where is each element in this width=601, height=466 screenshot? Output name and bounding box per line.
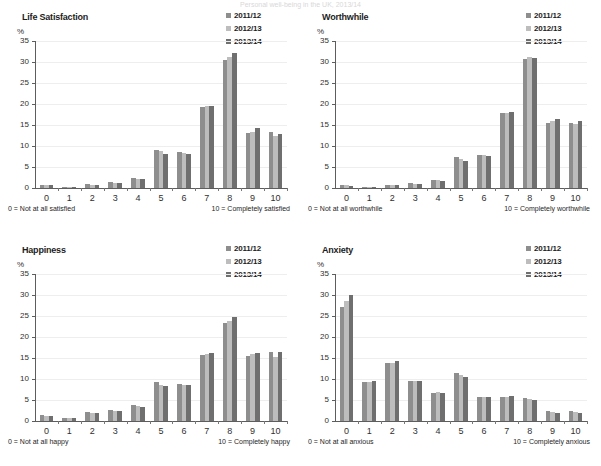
bar <box>49 185 54 188</box>
y-axis-tick-label: 10 <box>11 142 29 150</box>
x-axis-tick-label: 2 <box>81 426 103 436</box>
legend-item[interactable]: 2012/13 <box>226 22 292 34</box>
bar <box>395 361 400 421</box>
bar <box>72 418 77 421</box>
bar <box>278 134 283 188</box>
legend-item-label: 2012/13 <box>534 257 562 266</box>
legend-swatch-icon <box>226 13 231 18</box>
x-axis-tick-label: 0 <box>35 426 57 436</box>
x-axis-tick <box>104 421 105 424</box>
x-axis-tick <box>472 188 473 191</box>
x-axis-tick <box>58 188 59 191</box>
x-axis-tick-label: 10 <box>265 426 287 436</box>
y-axis-tick-label: 0 <box>311 184 329 192</box>
scale-footnote-high: 10 = Completely happy <box>218 438 290 445</box>
scale-footnote-high: 10 = Completely satisfied <box>212 205 290 212</box>
x-axis-tick-label: 9 <box>542 193 564 203</box>
bar <box>509 396 514 421</box>
bar <box>555 119 560 188</box>
x-axis-line <box>335 188 587 189</box>
x-axis-tick <box>518 421 519 424</box>
y-axis-tick-label: 25 <box>11 79 29 87</box>
y-axis-tick-label: 5 <box>11 163 29 171</box>
x-axis-tick <box>450 421 451 424</box>
y-axis-tick-label: 5 <box>311 396 329 404</box>
x-axis-tick-label: 2 <box>81 193 103 203</box>
x-axis-tick-label: 4 <box>427 193 449 203</box>
chart-title: Life Satisfaction <box>22 12 88 22</box>
bar <box>232 53 237 188</box>
bar <box>255 353 260 421</box>
bar <box>209 106 214 188</box>
bar-series-group <box>335 41 587 188</box>
x-axis-tick-label: 8 <box>519 426 541 436</box>
bar <box>486 156 491 188</box>
y-axis-tick-label: 15 <box>311 354 329 362</box>
legend-item[interactable]: 2012/13 <box>226 255 292 267</box>
x-axis-tick-label: 5 <box>150 426 172 436</box>
legend-item-label: 2012/13 <box>534 24 562 33</box>
legend-swatch-icon <box>526 26 531 31</box>
x-axis-tick <box>150 188 151 191</box>
y-axis-tick-label: 30 <box>311 291 329 299</box>
x-axis-tick <box>127 188 128 191</box>
x-axis-tick <box>241 188 242 191</box>
plot-area: 05101520253035012345678910 <box>335 41 587 188</box>
x-axis-tick <box>495 421 496 424</box>
x-axis-tick-label: 6 <box>473 426 495 436</box>
legend-item[interactable]: 2011/12 <box>226 9 292 21</box>
x-axis-tick <box>264 421 265 424</box>
x-axis-tick-label: 6 <box>473 193 495 203</box>
y-axis-tick-label: 35 <box>11 37 29 45</box>
x-axis-tick-label: 10 <box>565 426 587 436</box>
x-axis-tick <box>150 421 151 424</box>
legend-item[interactable]: 2011/12 <box>526 242 592 254</box>
plot-area: 05101520253035012345678910 <box>335 274 587 421</box>
bar <box>140 407 145 421</box>
y-axis-tick-label: 15 <box>311 121 329 129</box>
y-axis-unit-label: % <box>17 260 24 269</box>
bar <box>440 181 445 188</box>
legend-swatch-icon <box>526 259 531 264</box>
x-axis-tick-label: 4 <box>427 426 449 436</box>
bar <box>463 161 468 188</box>
legend-item[interactable]: 2012/13 <box>526 22 592 34</box>
bar <box>395 185 400 188</box>
scale-footnote-low: 0 = Not at all satisfied <box>8 205 75 212</box>
legend-item-label: 2011/12 <box>534 244 561 253</box>
x-axis-tick <box>358 421 359 424</box>
legend-item[interactable]: 2011/12 <box>226 242 292 254</box>
chart-grid: Life Satisfaction%2011/122012/132013/140… <box>0 0 601 466</box>
y-axis-tick-label: 5 <box>11 396 29 404</box>
x-axis-tick <box>587 421 588 424</box>
legend-swatch-icon <box>226 246 231 251</box>
y-axis-tick-label: 20 <box>311 333 329 341</box>
bar <box>532 58 537 188</box>
x-axis-tick-label: 1 <box>358 426 380 436</box>
bar <box>117 411 122 422</box>
bar <box>163 154 168 188</box>
legend-swatch-icon <box>226 259 231 264</box>
x-axis-tick <box>427 421 428 424</box>
bar <box>440 393 445 421</box>
y-axis-unit-label: % <box>317 260 324 269</box>
x-axis-tick-label: 1 <box>358 193 380 203</box>
scale-footnote-low: 0 = Not at all happy <box>8 438 69 445</box>
legend-item-label: 2012/13 <box>234 24 262 33</box>
y-axis-unit-label: % <box>17 27 24 36</box>
x-axis-tick-label: 0 <box>335 426 357 436</box>
x-axis-tick <box>81 421 82 424</box>
x-axis-tick <box>564 188 565 191</box>
legend-item[interactable]: 2011/12 <box>526 9 592 21</box>
x-axis-tick-label: 7 <box>496 193 518 203</box>
y-axis-tick-label: 30 <box>311 58 329 66</box>
bar <box>578 121 583 188</box>
x-axis-tick <box>218 421 219 424</box>
x-axis-tick <box>541 188 542 191</box>
x-axis-tick <box>172 188 173 191</box>
y-axis-tick-label: 10 <box>11 375 29 383</box>
legend-item[interactable]: 2012/13 <box>526 255 592 267</box>
x-axis-tick <box>564 421 565 424</box>
x-axis-tick <box>195 421 196 424</box>
bar <box>372 381 377 421</box>
